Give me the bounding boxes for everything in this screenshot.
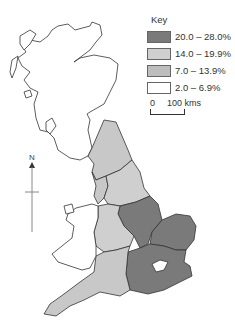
legend-item: 2.0 – 6.9%: [147, 80, 231, 95]
north-arrow: N: [24, 153, 40, 234]
scale-bar: 0 100 kms: [150, 98, 201, 115]
legend-label: 2.0 – 6.9%: [175, 82, 220, 93]
scale-start: 0: [150, 98, 155, 108]
region-wales: [52, 204, 98, 270]
north-arrow-icon: [24, 162, 40, 232]
legend-item: 20.0 – 28.0%: [147, 29, 231, 44]
legend-label: 14.0 – 19.9%: [175, 48, 231, 59]
legend-label: 7.0 – 13.9%: [175, 65, 226, 76]
legend-item: 14.0 – 19.9%: [147, 46, 231, 61]
scale-line: [150, 109, 185, 115]
legend-swatch: [147, 48, 171, 60]
map-legend: Key 20.0 – 28.0% 14.0 – 19.9% 7.0 – 13.9…: [147, 14, 231, 97]
scale-end: 100 kms: [167, 98, 201, 108]
legend-title: Key: [151, 14, 231, 25]
legend-swatch: [147, 82, 171, 94]
north-label: N: [24, 153, 40, 162]
legend-label: 20.0 – 28.0%: [175, 31, 231, 42]
legend-swatch: [147, 31, 171, 43]
legend-swatch: [147, 65, 171, 77]
legend-item: 7.0 – 13.9%: [147, 63, 231, 78]
